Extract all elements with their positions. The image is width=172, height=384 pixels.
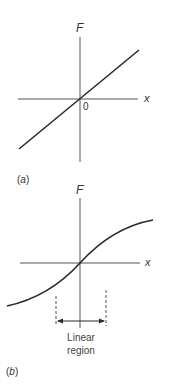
panel-a-caption: (a)	[17, 174, 29, 185]
panel-b-caption: (b)	[6, 366, 18, 377]
panel-a-x-label: x	[144, 93, 150, 104]
arrowhead-right-icon	[99, 319, 105, 324]
linear-region-label: Linear region	[51, 331, 111, 357]
panel-a-origin-label: 0	[83, 102, 89, 112]
arrowhead-left-icon	[57, 319, 63, 324]
panel-b-x-label: x	[145, 257, 151, 268]
panel-b-y-label: F	[76, 184, 83, 196]
panel-a-y-label: F	[76, 22, 83, 34]
diagram-canvas	[0, 0, 172, 384]
